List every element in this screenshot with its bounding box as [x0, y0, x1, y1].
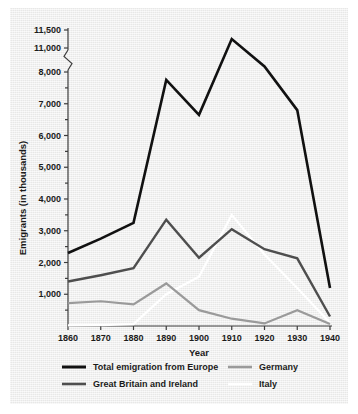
data-series-group	[68, 39, 330, 325]
y-tick-label: 6,000	[38, 131, 61, 141]
series-line-germany	[68, 283, 330, 324]
y-tick-label: 3,000	[38, 226, 61, 236]
x-axis-title: Year	[189, 347, 209, 358]
y-tick-label: 4,000	[38, 194, 61, 204]
x-tick-label: 1870	[91, 333, 111, 343]
legend-label: Italy	[259, 379, 277, 389]
x-tick-label: 1860	[58, 333, 78, 343]
axis-break-zigzag-icon	[64, 50, 72, 70]
axis-lines	[64, 28, 332, 330]
x-axis-tick-labels: 186018701880189019001910192019301940	[58, 333, 340, 343]
chart-legend: Total emigration from EuropeGreat Britai…	[62, 362, 298, 389]
y-tick-label: 5,000	[38, 162, 61, 172]
y-tick-label: 8,000	[38, 67, 61, 77]
legend-label: Total emigration from Europe	[93, 362, 218, 372]
emigration-line-chart: 1,0002,0003,0004,0005,0006,0007,0008,000…	[10, 8, 348, 404]
y-tick-label: 11,000	[34, 43, 61, 53]
x-tick-label: 1880	[123, 333, 143, 343]
x-tick-label: 1900	[189, 333, 209, 343]
x-tick-label: 1910	[222, 333, 242, 343]
y-tick-label: 7,000	[38, 99, 61, 109]
chart-panel: 1,0002,0003,0004,0005,0006,0007,0008,000…	[10, 8, 348, 404]
figure-container: 1,0002,0003,0004,0005,0006,0007,0008,000…	[0, 0, 358, 414]
x-tick-label: 1920	[254, 333, 274, 343]
y-tick-label: 1,000	[38, 289, 61, 299]
y-axis-tick-labels: 1,0002,0003,0004,0005,0006,0007,0008,000…	[34, 25, 61, 299]
series-line-total-emigration-from-europe	[68, 39, 330, 288]
x-tick-label: 1890	[156, 333, 176, 343]
y-tick-label: 2,000	[38, 258, 61, 268]
legend-label: Great Britain and Ireland	[93, 379, 198, 389]
y-axis-title: Emigrants (in thousands)	[17, 141, 28, 256]
y-tick-label: 11,500	[34, 25, 61, 35]
legend-label: Germany	[259, 362, 298, 372]
x-tick-label: 1930	[287, 333, 307, 343]
x-tick-label: 1940	[320, 333, 340, 343]
